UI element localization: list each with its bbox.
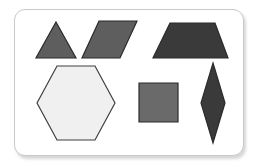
shape-canvas — [0, 0, 258, 165]
shape-hexagon[interactable] — [37, 66, 115, 140]
shape-rhombus[interactable] — [201, 63, 225, 143]
shape-card-scene — [0, 0, 258, 165]
shape-trapezoid[interactable] — [153, 23, 228, 58]
shape-triangle[interactable] — [36, 22, 76, 58]
shape-parallelogram[interactable] — [82, 21, 137, 58]
shape-square[interactable] — [139, 83, 178, 122]
